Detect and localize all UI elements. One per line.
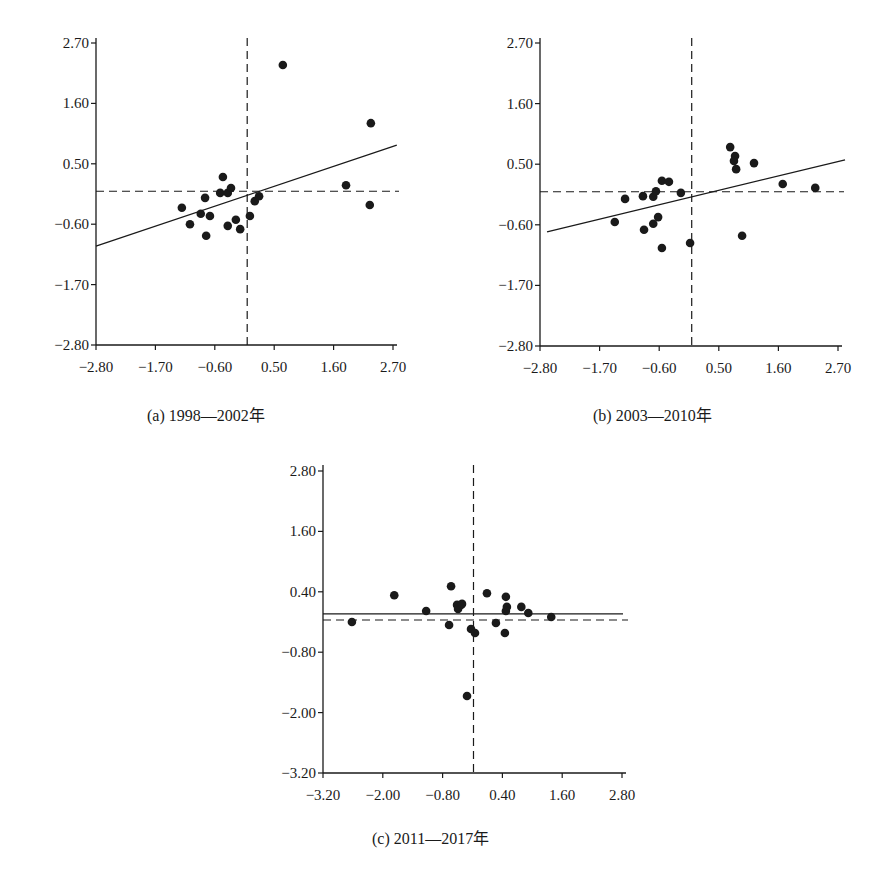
data-point: [445, 621, 454, 630]
data-point: [471, 629, 480, 638]
data-point: [483, 589, 492, 598]
y-tick-label: −3.20: [281, 765, 316, 781]
caption-c: (c) 2011—2017年: [372, 825, 489, 849]
x-tick-label: 0.40: [489, 787, 515, 803]
data-point: [547, 613, 556, 622]
data-point: [390, 591, 399, 600]
data-point: [458, 600, 467, 609]
x-tick-label: −2.00: [365, 787, 400, 803]
data-point: [492, 619, 501, 628]
scatter-plot-c: 2.801.600.40−0.80−2.00−3.20−3.20−2.00−0.…: [0, 0, 883, 883]
y-tick-label: 2.80: [290, 463, 316, 479]
x-tick-label: −0.80: [425, 787, 460, 803]
plot-area-c: 2.801.600.40−0.80−2.00−3.20−3.20−2.00−0.…: [0, 0, 883, 883]
data-point: [447, 582, 456, 591]
y-tick-label: −0.80: [281, 644, 316, 660]
data-point: [502, 607, 511, 616]
x-tick-label: −3.20: [306, 787, 341, 803]
x-tick-label: 1.60: [549, 787, 575, 803]
x-tick-label: 2.80: [609, 787, 635, 803]
data-point: [422, 607, 431, 616]
data-point: [502, 593, 511, 602]
data-point: [524, 609, 533, 618]
y-tick-label: −2.00: [281, 705, 316, 721]
data-point: [501, 629, 510, 638]
data-point: [517, 603, 526, 612]
data-point: [463, 692, 472, 701]
data-point: [348, 618, 357, 627]
y-tick-label: 0.40: [290, 584, 316, 600]
y-tick-label: 1.60: [290, 523, 316, 539]
